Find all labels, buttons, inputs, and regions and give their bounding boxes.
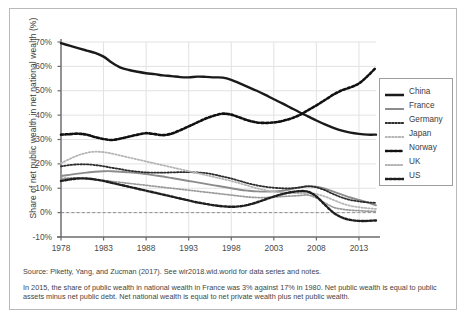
x-tick-label: 1988 [126, 243, 166, 253]
y-tick-label: 60% [22, 61, 52, 71]
legend-swatch-icon [385, 156, 404, 166]
x-tick-label: 1983 [84, 243, 124, 253]
x-tick-label: 1993 [169, 243, 209, 253]
legend-item-china[interactable]: China [380, 84, 452, 98]
legend-label: Japan [409, 129, 431, 138]
legend-swatch-icon [385, 170, 404, 180]
notes-block: Source: Piketty, Yang, and Zucman (2017)… [23, 267, 447, 302]
x-tick-label: 1978 [41, 243, 81, 253]
note-source: Source: Piketty, Yang, and Zucman (2017)… [23, 267, 447, 277]
legend-label: UK [409, 157, 420, 166]
note-body: In 2015, the share of public wealth in n… [23, 283, 447, 302]
legend-item-france[interactable]: France [380, 98, 452, 112]
series-line-us [61, 178, 376, 221]
legend-item-japan[interactable]: Japan [380, 126, 452, 140]
legend-swatch-icon [385, 114, 404, 124]
legend-item-germany[interactable]: Germany [380, 112, 452, 126]
y-tick-label: 40% [22, 110, 52, 120]
x-tick-label: 2003 [254, 243, 294, 253]
x-tick-label: 1998 [211, 243, 251, 253]
legend-label: Norway [409, 143, 437, 152]
legend-item-us[interactable]: US [380, 168, 452, 182]
chart-legend: ChinaFranceGermanyJapanNorwayUKUS [379, 78, 453, 186]
y-tick-label: 20% [22, 158, 52, 168]
legend-label: US [409, 171, 420, 180]
y-tick-label: 30% [22, 134, 52, 144]
series-line-china [61, 43, 376, 134]
legend-label: France [409, 101, 434, 110]
legend-swatch-icon [385, 86, 404, 96]
legend-item-uk[interactable]: UK [380, 154, 452, 168]
legend-item-norway[interactable]: Norway [380, 140, 452, 154]
y-tick-label: 0% [22, 207, 52, 217]
y-tick-label: 50% [22, 85, 52, 95]
legend-label: Germany [409, 115, 443, 124]
legend-swatch-icon [385, 142, 404, 152]
figure-panel: Share of net public wealth in net nation… [9, 8, 457, 310]
legend-label: China [409, 87, 430, 96]
series-layer [61, 43, 376, 221]
legend-swatch-icon [385, 128, 404, 138]
x-tick-label: 2013 [339, 243, 379, 253]
legend-swatch-icon [385, 100, 404, 110]
y-tick-label: 70% [22, 37, 52, 47]
series-line-germany [61, 164, 376, 203]
y-tick-label: 10% [22, 183, 52, 193]
x-tick-label: 2008 [296, 243, 336, 253]
y-tick-label: -10% [22, 232, 52, 242]
